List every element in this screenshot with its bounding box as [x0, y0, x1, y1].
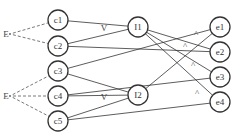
node-I1: I1	[128, 17, 148, 37]
dashed-edge	[13, 35, 48, 44]
node-c4: c4	[48, 86, 68, 106]
dashed-edge	[13, 97, 49, 116]
node-e3: e3	[210, 67, 230, 87]
node-label: c3	[54, 66, 63, 76]
angle-marker-icon: V	[101, 23, 108, 33]
angle-marker-icon: ^	[194, 29, 199, 39]
dashed-edge	[13, 76, 49, 95]
edge-I1-e4	[145, 34, 212, 96]
source-label: E	[3, 29, 9, 39]
angle-marker-icon: ^	[195, 88, 200, 98]
nodes: c1c2c3c4c5I1I2e1e2e3e4	[48, 10, 230, 131]
node-label: c1	[54, 15, 63, 25]
node-c1: c1	[48, 10, 68, 30]
network-diagram: VV^^^^ c1c2c3c4c5I1I2e1e2e3e4 EE	[0, 0, 240, 136]
angle-marker-icon: ^	[183, 41, 188, 51]
source-labels: EE	[3, 29, 11, 101]
node-label: c4	[54, 91, 63, 101]
source-dot	[9, 95, 11, 97]
source-dot	[9, 33, 11, 35]
node-label: e4	[216, 97, 225, 107]
edge-c1-I1	[68, 21, 128, 26]
dashed-edge	[13, 23, 49, 33]
edge-c3-I2	[68, 74, 129, 92]
node-label: e3	[216, 72, 225, 82]
edge-c4-I2	[68, 95, 128, 96]
node-label: I1	[134, 22, 142, 32]
dashed-edges	[13, 23, 49, 117]
edge-c5-e4	[68, 103, 210, 120]
node-label: c5	[54, 116, 63, 126]
node-e2: e2	[210, 42, 230, 62]
node-I2: I2	[128, 85, 148, 105]
node-label: c2	[54, 41, 63, 51]
edge-I1-e2	[148, 30, 211, 49]
angle-marker-icon: V	[101, 92, 108, 102]
source-label: E	[3, 91, 9, 101]
node-c5: c5	[48, 111, 68, 131]
edge-c2-I1	[68, 29, 129, 43]
edge-c5-I2	[68, 98, 129, 118]
edge-I2-e1	[146, 33, 213, 88]
node-label: I2	[134, 90, 142, 100]
node-e4: e4	[210, 92, 230, 112]
node-e1: e1	[210, 17, 230, 37]
node-c2: c2	[48, 36, 68, 56]
node-label: e2	[216, 47, 225, 57]
node-c3: c3	[48, 61, 68, 81]
node-label: e1	[216, 22, 225, 32]
